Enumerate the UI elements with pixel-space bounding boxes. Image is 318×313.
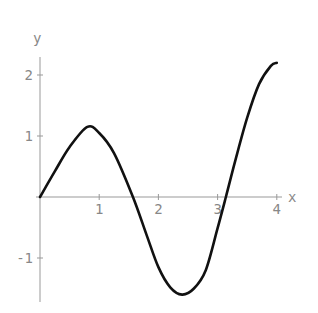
y-tick-label: 2: [25, 67, 33, 83]
y-tick-label: -1: [16, 250, 33, 266]
axis-ticks: 1234-112: [16, 67, 281, 266]
y-tick-label: 1: [25, 128, 33, 144]
x-axis-label: x: [288, 189, 296, 205]
x-tick-label: 1: [95, 201, 103, 217]
line-chart: 1234-112 x y: [0, 0, 318, 313]
x-tick-label: 4: [273, 201, 281, 217]
x-tick-label: 2: [154, 201, 162, 217]
data-line: [40, 63, 277, 295]
y-axis-label: y: [33, 30, 41, 46]
